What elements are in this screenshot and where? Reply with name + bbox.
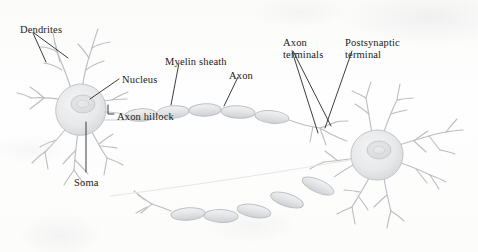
leader-postsynaptic (325, 51, 352, 128)
label-axon: Axon (229, 70, 253, 82)
label-myelin-sheath: Myelin sheath (165, 56, 227, 68)
soma-left (56, 84, 127, 135)
soma-right (351, 130, 403, 180)
nucleus-right (367, 141, 391, 159)
label-axon-terminals: Axon terminals (283, 37, 341, 60)
label-soma: Soma (74, 177, 99, 189)
axon-terminal-arbor (289, 120, 348, 145)
label-postsynaptic-terminal: Postsynaptic terminal (345, 37, 415, 60)
myelin-segments-lower (171, 165, 353, 223)
label-nucleus: Nucleus (122, 74, 157, 86)
axon-distal-left-end (134, 191, 171, 213)
label-axon-hillock: Axon hillock (117, 111, 174, 123)
postsynaptic-neuron (110, 82, 463, 228)
leader-myelin (171, 63, 179, 105)
leader-dendrites-b (34, 33, 68, 58)
figure-canvas: Dendrites Nucleus Axon hillock Soma Myel… (0, 0, 478, 252)
label-dendrites: Dendrites (20, 24, 62, 36)
